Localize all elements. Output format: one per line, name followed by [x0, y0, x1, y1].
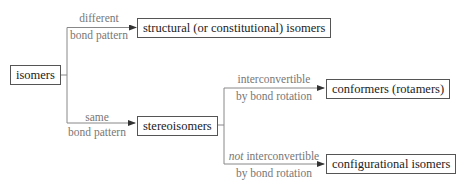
node-isomers: isomers: [10, 65, 61, 85]
node-conformers: conformers (rotamers): [326, 79, 450, 99]
edge-label-by-bond-rotation-1: by bond rotation: [236, 90, 312, 103]
edge-label-not-interconvertible: not interconvertible: [229, 150, 319, 163]
edge-label-bond-pattern-2: bond pattern: [68, 126, 126, 139]
node-structural-isomers: structural (or constitutional) isomers: [137, 18, 331, 38]
emphasis-not: not: [229, 150, 244, 162]
edge-label-different: different: [79, 12, 118, 25]
edge-label-by-bond-rotation-2: by bond rotation: [236, 167, 312, 180]
node-stereoisomers: stereoisomers: [137, 116, 218, 136]
node-configurational-isomers: configurational isomers: [326, 154, 456, 174]
edge-label-interconvertible: interconvertible: [238, 73, 311, 86]
edge-label-text: interconvertible: [244, 150, 320, 162]
edge-label-same: same: [85, 111, 109, 124]
edge-label-bond-pattern-1: bond pattern: [70, 29, 128, 42]
